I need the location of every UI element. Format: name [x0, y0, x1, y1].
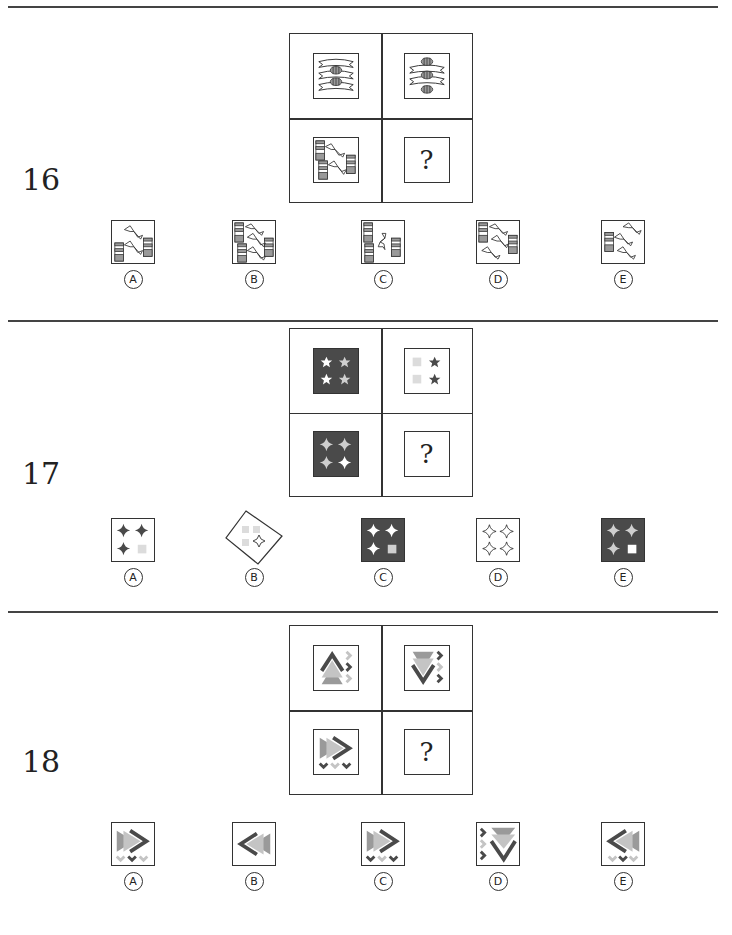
ring-bowtie-figure	[313, 53, 359, 99]
option-18-a[interactable]: A	[108, 822, 158, 891]
option-label: A	[124, 270, 143, 289]
matrix-18: ?	[289, 625, 473, 795]
option-figure	[111, 518, 155, 562]
option-label: A	[124, 872, 143, 891]
option-figure	[601, 220, 645, 264]
matrix-17-cell-top-right	[381, 329, 472, 413]
option-label: B	[245, 872, 264, 891]
option-label: B	[245, 270, 264, 289]
matrix-16-cell-bottom-right: ?	[381, 118, 472, 202]
squares-stars-figure	[404, 348, 450, 394]
option-label: D	[489, 872, 508, 891]
option-17-b[interactable]: B	[229, 518, 279, 587]
option-figure	[232, 518, 276, 562]
option-16-b[interactable]: B	[229, 220, 279, 289]
option-18-e[interactable]: E	[598, 822, 648, 891]
option-figure	[361, 518, 405, 562]
option-16-a[interactable]: A	[108, 220, 158, 289]
matrix-17-cell-bottom-left	[290, 413, 381, 497]
option-figure	[232, 220, 276, 264]
option-16-c[interactable]: C	[358, 220, 408, 289]
option-18-c[interactable]: C	[358, 822, 408, 891]
matrix-16-cell-top-left	[290, 34, 381, 118]
option-label: E	[614, 568, 633, 587]
option-figure	[601, 518, 645, 562]
question-number-17: 17	[22, 456, 60, 491]
option-label: C	[374, 270, 393, 289]
ring-bowtie-figure	[404, 53, 450, 99]
matrix-18-cell-bottom-right: ?	[381, 710, 472, 794]
option-figure	[361, 822, 405, 866]
four-point-stars-figure	[313, 431, 359, 477]
option-figure	[476, 518, 520, 562]
option-label: C	[374, 872, 393, 891]
option-figure	[361, 220, 405, 264]
matrix-17-cell-bottom-right: ?	[381, 413, 472, 497]
matrix-18-cell-bottom-left	[290, 710, 381, 794]
question-mark-box: ?	[404, 729, 450, 775]
top-divider	[8, 6, 718, 8]
option-figure	[476, 822, 520, 866]
option-figure	[111, 822, 155, 866]
down-arrow-figure	[404, 645, 450, 691]
question-number-16: 16	[22, 162, 60, 197]
right-arrow-figure	[313, 729, 359, 775]
divider-16-17	[8, 320, 718, 322]
matrix-16: ?	[289, 33, 473, 203]
option-figure	[476, 220, 520, 264]
bars-bowtie-figure	[313, 137, 359, 183]
option-label: A	[124, 568, 143, 587]
question-number-18: 18	[22, 744, 60, 779]
option-16-e[interactable]: E	[598, 220, 648, 289]
option-label: B	[245, 568, 264, 587]
matrix-16-cell-top-right	[381, 34, 472, 118]
option-18-b[interactable]: B	[229, 822, 279, 891]
option-17-c[interactable]: C	[358, 518, 408, 587]
divider-17-18	[8, 611, 718, 613]
question-mark-box: ?	[404, 431, 450, 477]
option-18-d[interactable]: D	[473, 822, 523, 891]
matrix-17-cell-top-left	[290, 329, 381, 413]
stars-figure	[313, 348, 359, 394]
option-label: C	[374, 568, 393, 587]
up-arrow-figure	[313, 645, 359, 691]
option-label: D	[489, 568, 508, 587]
option-17-a[interactable]: A	[108, 518, 158, 587]
matrix-17: ?	[289, 328, 473, 497]
matrix-16-cell-bottom-left	[290, 118, 381, 202]
option-label: E	[614, 270, 633, 289]
option-figure	[601, 822, 645, 866]
matrix-18-cell-top-right	[381, 626, 472, 710]
option-label: E	[614, 872, 633, 891]
option-17-e[interactable]: E	[598, 518, 648, 587]
option-figure	[232, 822, 276, 866]
question-mark-box: ?	[404, 137, 450, 183]
option-16-d[interactable]: D	[473, 220, 523, 289]
option-17-d[interactable]: D	[473, 518, 523, 587]
option-label: D	[489, 270, 508, 289]
option-figure	[111, 220, 155, 264]
matrix-18-cell-top-left	[290, 626, 381, 710]
